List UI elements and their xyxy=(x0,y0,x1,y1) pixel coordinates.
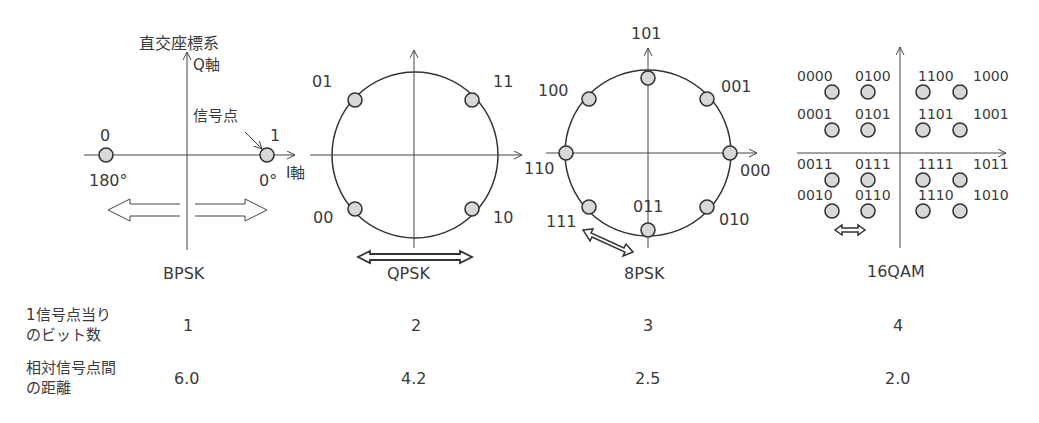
distance-bpsk: 6.0 xyxy=(174,369,199,388)
qpsk-diagram xyxy=(310,50,522,263)
bits-per-symbol-label: 1信号点当り のビット数 xyxy=(26,305,111,345)
relative-distance-label-line2: の距離 xyxy=(26,378,116,398)
8psk-label-100: 100 xyxy=(538,81,569,100)
16qam-label: 0000 xyxy=(797,68,833,84)
16qam-label: 0001 xyxy=(797,106,833,122)
16qam-label: 0101 xyxy=(855,106,891,122)
double-arrow-16qam xyxy=(835,225,865,235)
16qam-label: 1110 xyxy=(918,187,954,203)
16qam-label: 0011 xyxy=(797,156,833,172)
distance-qpsk: 4.2 xyxy=(401,369,426,388)
16qam-title: 16QAM xyxy=(867,262,925,281)
8psk-label-001: 001 xyxy=(721,77,752,96)
distance-16qam: 2.0 xyxy=(885,369,910,388)
constellation-diagrams xyxy=(0,0,1039,423)
bpsk-point-1: 1 xyxy=(270,126,280,145)
8psk-label-111: 111 xyxy=(546,212,577,231)
q-axis-label: Q軸 xyxy=(193,53,220,74)
double-arrow-right xyxy=(195,199,267,221)
16qam-label: 1011 xyxy=(973,156,1009,172)
8psk-label-000: 000 xyxy=(740,161,771,180)
8psk-label-101: 101 xyxy=(631,24,662,43)
8psk-title: 8PSK xyxy=(624,264,664,283)
16qam-label: 1100 xyxy=(918,68,954,84)
qpsk-title: QPSK xyxy=(387,264,430,283)
bpsk-angle-180: 180° xyxy=(89,171,128,190)
double-arrow-left xyxy=(108,199,180,221)
signal-point-pointer xyxy=(245,132,262,149)
8psk-label-110: 110 xyxy=(524,159,555,178)
double-arrow-qpsk xyxy=(358,251,472,263)
bits-8psk: 3 xyxy=(643,316,653,335)
bits-per-symbol-label-line2: のビット数 xyxy=(26,325,111,345)
qpsk-label-10: 10 xyxy=(493,208,513,227)
16qam-label: 1111 xyxy=(918,156,954,172)
relative-distance-label: 相対信号点間 の距離 xyxy=(26,358,116,398)
bpsk-point-0: 0 xyxy=(100,126,110,145)
8psk-label-011: 011 xyxy=(633,197,664,216)
16qam-label: 1000 xyxy=(973,68,1009,84)
16qam-label: 0010 xyxy=(797,187,833,203)
16qam-label: 0111 xyxy=(855,156,891,172)
bits-per-symbol-label-line1: 1信号点当り xyxy=(26,305,111,325)
qpsk-label-01: 01 xyxy=(312,72,332,91)
16qam-label: 1101 xyxy=(918,106,954,122)
bits-qpsk: 2 xyxy=(411,316,421,335)
signal-point-label: 信号点 xyxy=(193,104,238,125)
16qam-label: 1010 xyxy=(973,187,1009,203)
coordinate-system-label: 直交座標系 xyxy=(139,30,219,54)
i-axis-label: I軸 xyxy=(286,161,305,182)
qpsk-label-00: 00 xyxy=(313,208,333,227)
8psk-label-010: 010 xyxy=(719,210,750,229)
bpsk-angle-0: 0° xyxy=(259,171,277,190)
16qam-label: 0100 xyxy=(855,68,891,84)
relative-distance-label-line1: 相対信号点間 xyxy=(26,358,116,378)
bpsk-title: BPSK xyxy=(163,264,204,283)
qpsk-label-11: 11 xyxy=(493,72,513,91)
bits-16qam: 4 xyxy=(893,316,903,335)
distance-8psk: 2.5 xyxy=(635,369,660,388)
16qam-label: 1001 xyxy=(973,106,1009,122)
16qam-label: 0110 xyxy=(855,187,891,203)
bits-bpsk: 1 xyxy=(183,316,193,335)
